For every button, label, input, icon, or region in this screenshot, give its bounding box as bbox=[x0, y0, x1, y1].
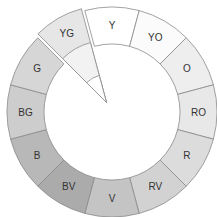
segment-label-rv: RV bbox=[148, 181, 162, 192]
segment-label-bg: BG bbox=[18, 107, 33, 118]
segment-label-b: B bbox=[34, 150, 41, 161]
wheel-segments bbox=[7, 7, 217, 217]
segment-label-ro: RO bbox=[191, 107, 206, 118]
segment-label-o: O bbox=[183, 63, 191, 74]
segment-label-yo: YO bbox=[148, 32, 163, 43]
segment-label-r: R bbox=[183, 150, 190, 161]
segment-label-yg: YG bbox=[60, 28, 75, 39]
segment-label-bv: BV bbox=[62, 181, 76, 192]
segment-label-y: Y bbox=[109, 20, 116, 31]
segment-label-v: V bbox=[109, 193, 116, 204]
color-wheel: Y YO O RO R RV V BV B BG G YG bbox=[0, 0, 217, 217]
segment-label-g: G bbox=[33, 63, 41, 74]
